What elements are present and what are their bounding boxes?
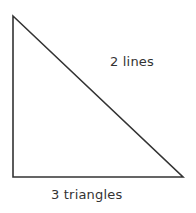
triangles-label: 3 triangles (51, 187, 123, 202)
lines-label: 2 lines (110, 54, 154, 69)
right-triangle (13, 16, 183, 177)
triangle-diagram (0, 0, 196, 213)
